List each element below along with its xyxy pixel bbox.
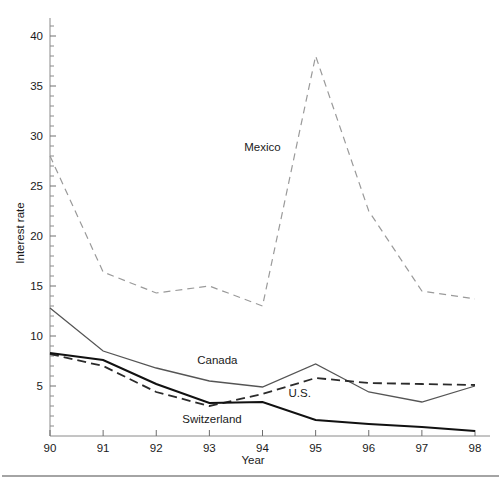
y-tick-label: 10 (30, 330, 43, 342)
y-tick-label: 40 (30, 30, 43, 42)
x-axis-ticks (50, 430, 475, 436)
x-axis-tick-labels: 909192939495969798 (44, 442, 482, 454)
series-label-canada: Canada (197, 354, 238, 366)
series-line-mexico (50, 56, 475, 306)
y-tick-label: 35 (30, 80, 43, 92)
series-line-u-s (50, 354, 475, 406)
x-tick-label: 90 (44, 442, 57, 454)
x-tick-label: 92 (150, 442, 163, 454)
x-tick-label: 91 (97, 442, 110, 454)
series-label-us: U.S. (289, 387, 311, 399)
series-lines (50, 56, 475, 431)
interest-rate-chart-figure: 510152025303540 909192939495969798 Mexic… (0, 0, 501, 484)
line-chart-plot: 510152025303540 909192939495969798 Mexic… (0, 0, 501, 484)
x-tick-label: 97 (415, 442, 428, 454)
x-tick-label: 93 (203, 442, 216, 454)
y-tick-label: 25 (30, 180, 43, 192)
y-tick-label: 15 (30, 280, 43, 292)
x-tick-label: 95 (309, 442, 322, 454)
series-label-switzerland: Switzerland (182, 413, 241, 425)
y-axis-tick-labels: 510152025303540 (30, 30, 43, 392)
series-line-switzerland (50, 353, 475, 431)
y-tick-label: 5 (37, 380, 43, 392)
x-tick-label: 98 (469, 442, 482, 454)
y-axis-title: Interest rate (14, 202, 26, 263)
series-label-mexico: Mexico (244, 141, 280, 153)
x-axis-title: Year (241, 454, 264, 466)
y-tick-label: 30 (30, 130, 43, 142)
x-tick-label: 96 (362, 442, 375, 454)
y-axis-ticks (50, 26, 56, 426)
y-tick-label: 20 (30, 230, 43, 242)
x-tick-label: 94 (256, 442, 269, 454)
series-line-canada (50, 308, 475, 402)
